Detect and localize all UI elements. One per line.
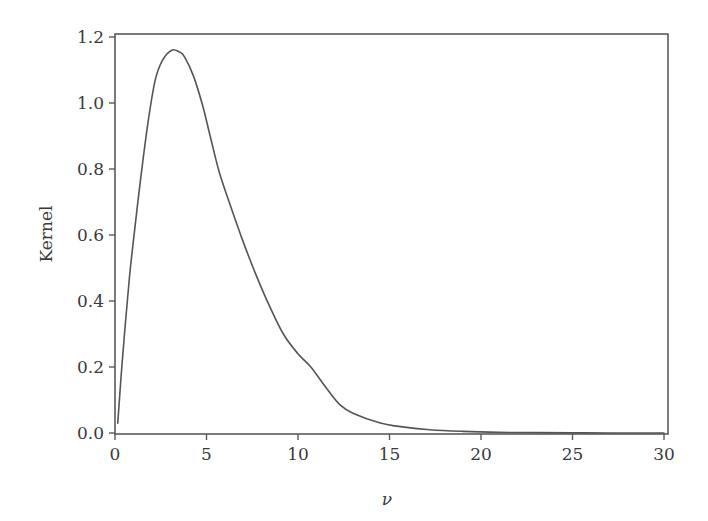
x-tick-label: 0 — [110, 444, 121, 464]
x-tick-label: 30 — [653, 444, 675, 464]
x-tick-label: 5 — [201, 444, 212, 464]
y-axis-label: Kernel — [36, 206, 56, 263]
y-tick-label: 0.0 — [77, 423, 104, 443]
y-tick-label: 1.2 — [77, 27, 104, 47]
x-axis-label: ν — [382, 489, 392, 509]
plot-border — [115, 34, 668, 434]
x-tick-label: 20 — [470, 444, 492, 464]
kernel-curve — [118, 50, 664, 433]
y-tick-label: 0.6 — [77, 225, 104, 245]
y-axis-ticks: 0.00.20.40.60.81.01.2 — [77, 27, 115, 443]
y-tick-label: 1.0 — [77, 93, 104, 113]
x-tick-label: 15 — [379, 444, 401, 464]
y-tick-label: 0.4 — [77, 291, 104, 311]
x-tick-label: 10 — [287, 444, 309, 464]
plot-frame — [115, 34, 668, 434]
x-tick-label: 25 — [562, 444, 584, 464]
data-series — [118, 50, 664, 433]
y-tick-label: 0.8 — [77, 159, 104, 179]
x-axis-ticks: 051015202530 — [110, 434, 675, 464]
kernel-chart: 051015202530 0.00.20.40.60.81.01.2 ν Ker… — [0, 0, 708, 521]
y-tick-label: 0.2 — [77, 357, 104, 377]
